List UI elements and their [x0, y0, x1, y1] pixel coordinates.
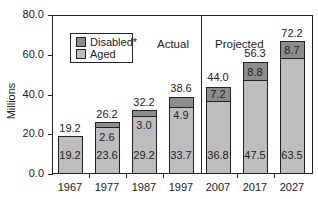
x-tick [89, 174, 90, 178]
total-value: 19.2 [50, 122, 90, 134]
aged-value: 19.2 [50, 149, 90, 161]
legend-item-disabled: Disabled* [76, 36, 137, 48]
disabled-swatch [76, 37, 86, 47]
y-tick-label: 60.0 [4, 48, 44, 60]
x-tick-label: 1977 [87, 181, 127, 193]
disabled-value: 7.2 [198, 88, 238, 100]
x-tick [126, 174, 127, 178]
total-value: 72.2 [272, 27, 312, 39]
stacked-bar-chart: Millions 80.0 60.0 40.0 20.0 0.0 Actual … [0, 0, 318, 199]
aged-value: 36.8 [198, 149, 238, 161]
disabled-value: 8.7 [272, 44, 312, 56]
aged-value: 33.7 [161, 149, 201, 161]
disabled-value: 2.6 [87, 131, 127, 143]
total-value: 32.2 [124, 96, 164, 108]
aged-value: 23.6 [87, 149, 127, 161]
bar-aged-2007 [206, 101, 231, 174]
bar-disabled-1977 [95, 122, 120, 128]
x-tick [163, 174, 164, 178]
legend-item-aged: Aged [76, 48, 116, 60]
actual-label: Actual [157, 38, 189, 50]
aged-swatch [76, 49, 86, 59]
total-value: 44.0 [198, 71, 238, 83]
y-tick-label: 0.0 [4, 167, 44, 179]
total-value: 56.3 [235, 47, 275, 59]
aged-value: 47.5 [235, 149, 275, 161]
x-tick-label: 2027 [272, 181, 312, 193]
x-tick [237, 174, 238, 178]
x-tick-label: 2007 [198, 181, 238, 193]
x-tick-label: 1967 [50, 181, 90, 193]
total-value: 26.2 [87, 108, 127, 120]
total-value: 38.6 [161, 82, 201, 94]
disabled-value: 3.0 [124, 119, 164, 131]
x-tick-label: 2017 [235, 181, 275, 193]
y-axis-title: Millions [5, 76, 17, 126]
disabled-value: 4.9 [161, 109, 201, 121]
y-tick-label: 20.0 [4, 127, 44, 139]
legend: Disabled* Aged [70, 33, 133, 63]
bar-disabled-1987 [132, 110, 157, 117]
y-tick [48, 174, 53, 175]
aged-value: 29.2 [124, 149, 164, 161]
aged-value: 63.5 [272, 149, 312, 161]
y-tick-label: 80.0 [4, 8, 44, 20]
x-tick [274, 174, 275, 178]
x-tick-label: 1997 [161, 181, 201, 193]
x-tick-label: 1987 [124, 181, 164, 193]
bar-disabled-1997 [169, 97, 194, 108]
disabled-value: 8.8 [235, 66, 275, 78]
y-tick-label: 40.0 [4, 88, 44, 100]
